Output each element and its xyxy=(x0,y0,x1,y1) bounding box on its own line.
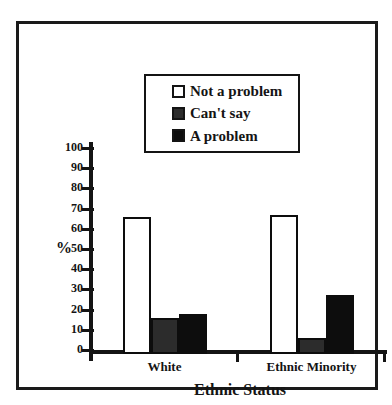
y-tick-mark xyxy=(82,349,94,352)
y-tick-label: 10 xyxy=(45,322,83,337)
legend-item-can-t-say: Can't say xyxy=(172,105,294,121)
x-category-label-ethnic-minority: Ethnic Minority xyxy=(267,359,357,375)
x-axis-title: Ethnic Status xyxy=(194,381,286,399)
y-tick-mark xyxy=(82,147,94,150)
y-tick-mark xyxy=(82,268,94,271)
y-tick-mark xyxy=(82,187,94,190)
y-tick-label: 50 xyxy=(45,241,83,256)
scanned-figure: Not a problemCan't sayA problem % Ethnic… xyxy=(0,0,392,405)
y-tick-label: 30 xyxy=(45,281,83,296)
y-tick-mark xyxy=(82,248,94,251)
x-category-label-white: White xyxy=(148,359,182,375)
y-tick-mark xyxy=(82,228,94,231)
legend-label: Not a problem xyxy=(190,83,282,99)
legend-label: Can't say xyxy=(190,105,250,121)
y-tick-label: 20 xyxy=(45,302,83,317)
y-tick-label: 40 xyxy=(45,261,83,276)
bar-ethnic-minority-can-t-say xyxy=(298,338,326,354)
y-tick-label: 80 xyxy=(45,180,83,195)
legend-item-not-a-problem: Not a problem xyxy=(172,83,294,99)
bar-white-a-problem xyxy=(179,314,207,354)
bar-ethnic-minority-not-a-problem xyxy=(270,215,298,354)
legend-swatch-a-problem xyxy=(172,129,185,142)
y-tick-mark xyxy=(82,288,94,291)
legend-swatch-not-a-problem xyxy=(172,85,185,98)
x-tick-mark xyxy=(236,354,239,362)
legend-item-a-problem: A problem xyxy=(172,128,294,144)
bar-ethnic-minority-a-problem xyxy=(326,295,354,354)
y-tick-mark xyxy=(82,309,94,312)
y-tick-label: 100 xyxy=(45,140,83,155)
y-tick-mark xyxy=(82,329,94,332)
y-tick-mark xyxy=(82,167,94,170)
legend-label: A problem xyxy=(190,128,258,144)
bar-white-not-a-problem xyxy=(123,217,151,354)
bar-white-can-t-say xyxy=(151,318,179,354)
y-tick-label: 0 xyxy=(45,342,83,357)
legend-swatch-can-t-say xyxy=(172,107,185,120)
legend-box: Not a problemCan't sayA problem xyxy=(144,74,300,153)
y-tick-label: 60 xyxy=(45,221,83,236)
y-tick-label: 90 xyxy=(45,160,83,175)
x-tick-mark xyxy=(383,354,386,362)
chart-frame: Not a problemCan't sayA problem % Ethnic… xyxy=(16,21,378,390)
y-tick-mark xyxy=(82,208,94,211)
y-tick-label: 70 xyxy=(45,201,83,216)
